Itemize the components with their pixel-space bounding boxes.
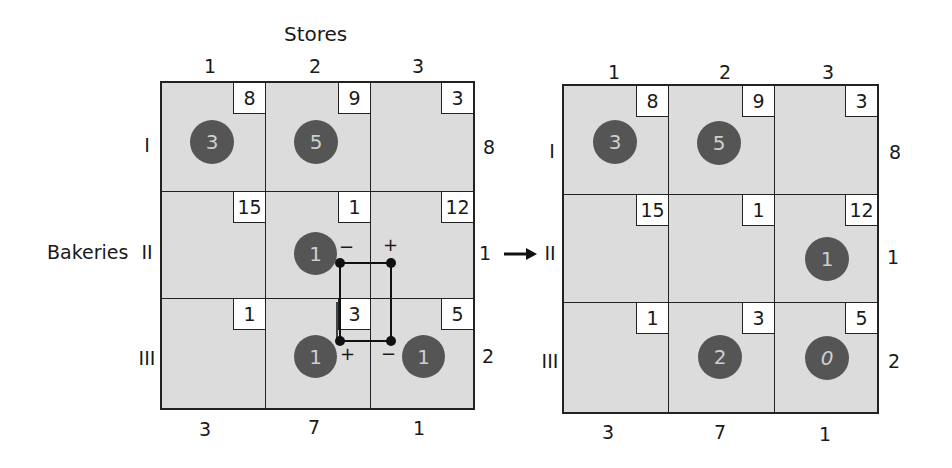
cost-box: 15 xyxy=(636,195,668,226)
column-header: 3 xyxy=(408,57,428,76)
cost-box: 1 xyxy=(233,299,265,330)
supply-value: 1 xyxy=(475,244,495,263)
stores-title: Stores xyxy=(284,22,347,46)
row-header: II xyxy=(138,243,156,262)
row-title: Bakeries xyxy=(47,243,128,262)
demand-value: 7 xyxy=(304,418,324,437)
row-header: I xyxy=(545,142,559,161)
allocation-circle: 3 xyxy=(593,120,637,164)
allocation-circle: 5 xyxy=(294,120,338,164)
cell-I-3: 3 xyxy=(775,86,877,195)
loop-sign-minus: − xyxy=(381,345,396,363)
cell-III-3: 5 0 xyxy=(775,303,877,412)
allocation-circle: 3 xyxy=(190,120,234,164)
cell-II-1: 15 xyxy=(162,192,266,299)
cell-I-1: 8 3 xyxy=(162,83,266,192)
allocation-circle: 0 xyxy=(805,336,849,380)
column-header: 1 xyxy=(604,63,624,82)
demand-value: 3 xyxy=(195,420,215,439)
allocation-circle: 1 xyxy=(402,335,445,378)
cost-box: 8 xyxy=(233,83,265,114)
loop-sign-plus: + xyxy=(340,345,355,363)
cost-box: 3 xyxy=(338,299,370,330)
cost-box: 1 xyxy=(338,192,370,223)
row-header: I xyxy=(140,136,154,155)
demand-value: 1 xyxy=(815,425,835,444)
allocation-circle: 1 xyxy=(294,232,337,275)
row-header: III xyxy=(137,349,157,368)
demand-value: 3 xyxy=(598,423,618,442)
supply-value: 8 xyxy=(479,138,499,157)
row-header: III xyxy=(540,352,560,371)
loop-sign-minus: − xyxy=(339,238,354,256)
cell-I-2: 9 5 xyxy=(669,86,775,195)
cell-II-1: 15 xyxy=(564,195,669,303)
right-grid: 8 3 9 5 3 15 1 12 1 1 3 2 5 0 xyxy=(562,84,879,414)
left-grid: 8 3 9 5 3 15 1 1 12 1 3 1 5 1 xyxy=(160,81,475,410)
cell-III-2: 3 1 xyxy=(266,299,371,408)
cost-box: 5 xyxy=(845,303,877,334)
cell-I-1: 8 3 xyxy=(564,86,669,195)
cost-box: 1 xyxy=(742,195,774,226)
cost-box: 3 xyxy=(845,86,877,117)
row-header: II xyxy=(541,244,559,263)
allocation-circle: 1 xyxy=(294,335,337,378)
cell-III-1: 1 xyxy=(162,299,266,408)
demand-value: 1 xyxy=(409,419,429,438)
cell-I-2: 9 5 xyxy=(266,83,371,192)
cell-II-2: 1 1 xyxy=(266,192,371,299)
cost-box: 12 xyxy=(441,192,473,223)
cell-II-2: 1 xyxy=(669,195,775,303)
cost-box: 1 xyxy=(636,303,668,334)
cost-box: 3 xyxy=(441,83,473,114)
column-header: 1 xyxy=(200,57,220,76)
column-header: 3 xyxy=(818,63,838,82)
cost-box: 8 xyxy=(636,86,668,117)
cost-box: 9 xyxy=(742,86,774,117)
cost-box: 12 xyxy=(845,195,877,226)
demand-value: 7 xyxy=(710,423,730,442)
cost-box: 15 xyxy=(233,192,265,223)
supply-value: 8 xyxy=(885,143,905,162)
supply-value: 1 xyxy=(883,248,903,267)
cost-box: 3 xyxy=(742,303,774,334)
column-header: 2 xyxy=(305,57,325,76)
cell-I-3: 3 xyxy=(371,83,473,192)
cost-box: 9 xyxy=(338,83,370,114)
column-header: 2 xyxy=(715,63,735,82)
allocation-circle: 1 xyxy=(805,237,849,281)
cost-box: 5 xyxy=(441,299,473,330)
supply-value: 2 xyxy=(884,352,904,371)
cell-III-1: 1 xyxy=(564,303,669,412)
supply-value: 2 xyxy=(478,347,498,366)
allocation-circle: 2 xyxy=(698,335,742,379)
cell-II-3: 12 1 xyxy=(775,195,877,303)
loop-sign-plus: + xyxy=(383,236,398,254)
cell-III-2: 3 2 xyxy=(669,303,775,412)
allocation-circle: 5 xyxy=(697,121,741,165)
